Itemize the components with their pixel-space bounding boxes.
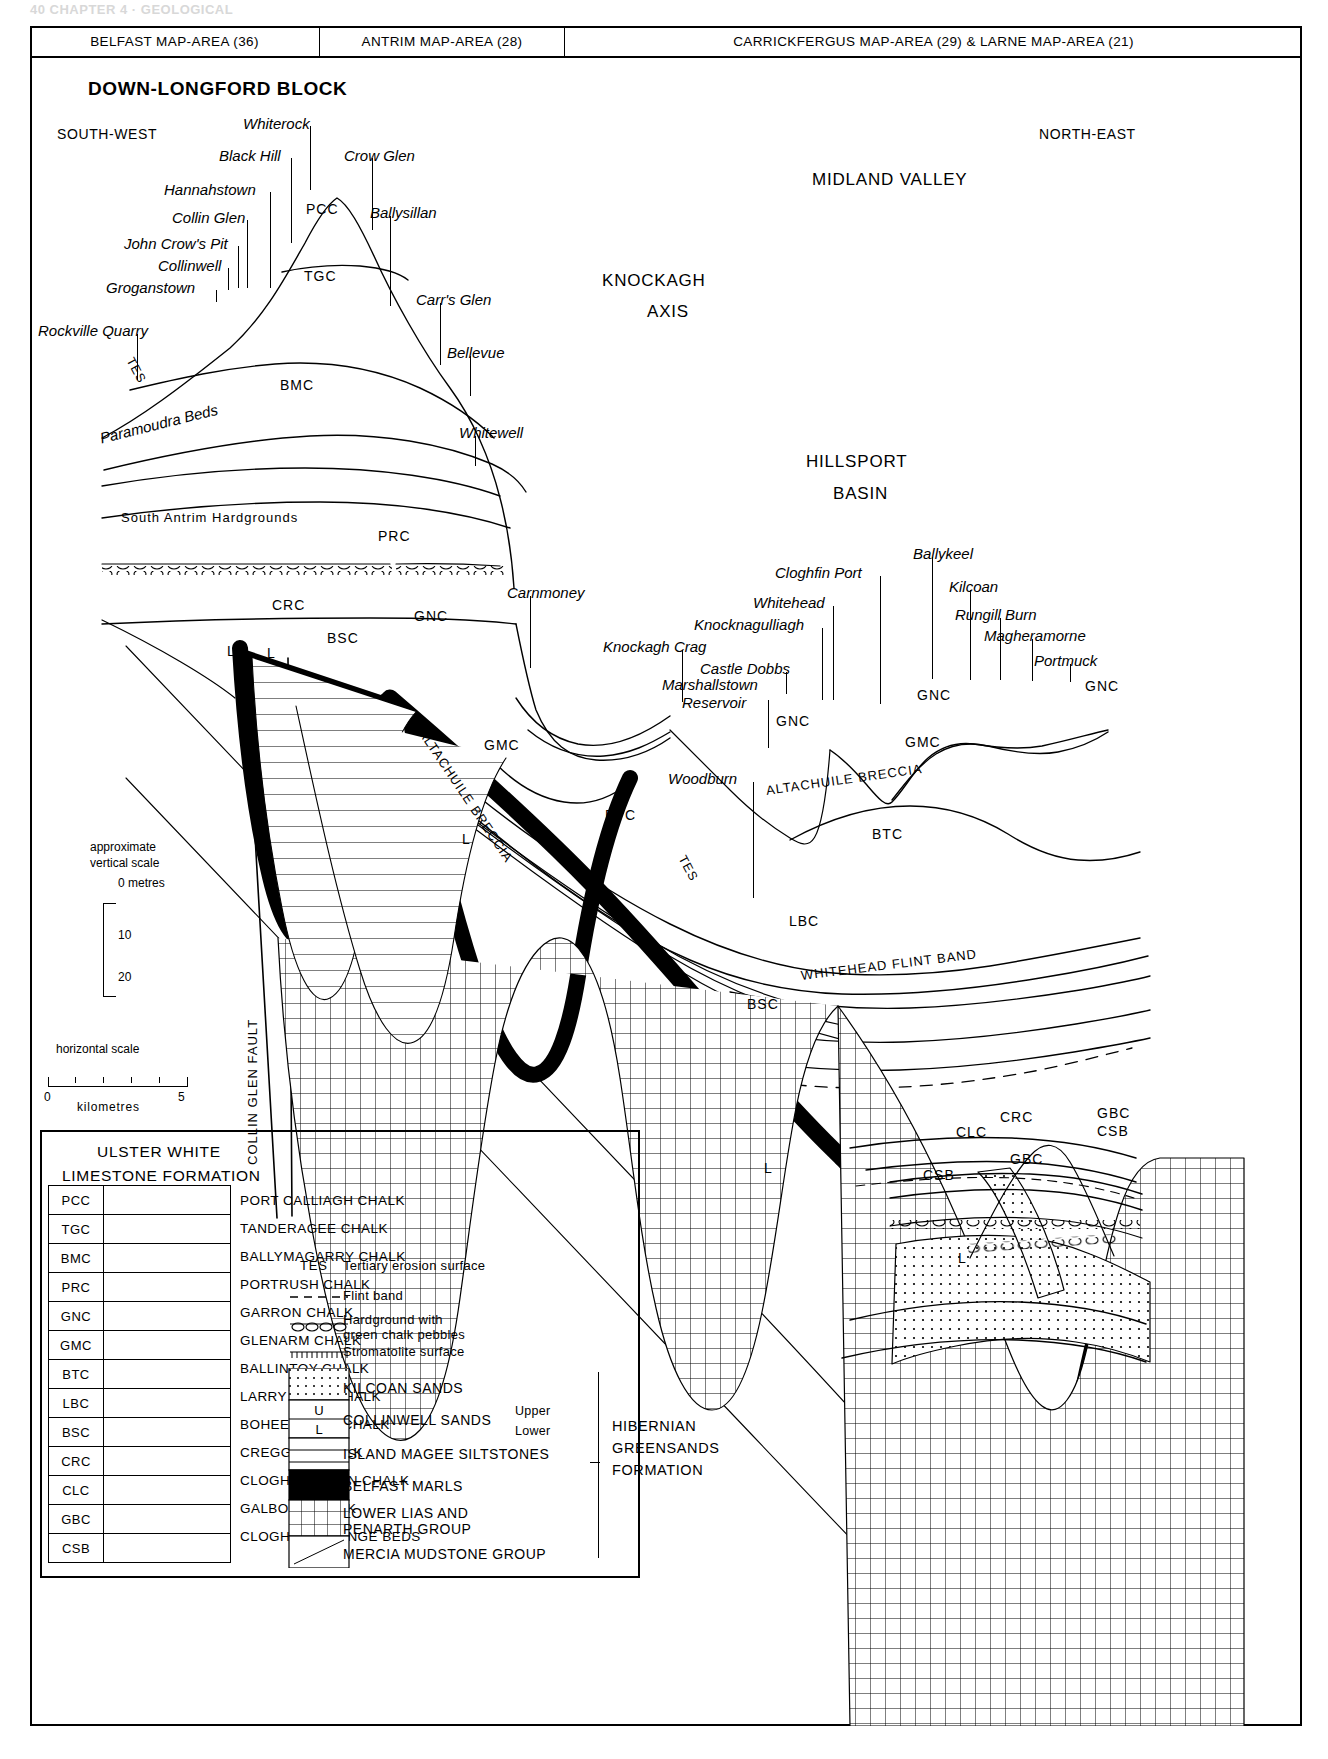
locality-label: Rockville Quarry xyxy=(38,322,148,339)
section-formation-code: BTC xyxy=(872,826,903,842)
locality-label: Reservoir xyxy=(682,694,746,711)
section-formation-code: GNC xyxy=(414,608,448,624)
vertical-scale-tick-20: 20 xyxy=(118,970,131,984)
direction-south-west: SOUTH-WEST xyxy=(57,126,157,142)
locality-label: Collin Glen xyxy=(172,209,245,226)
locality-label: Groganstown xyxy=(106,279,195,296)
map-area-cell-carrickfergus-larne: CARRICKFERGUS MAP-AREA (29) & LARNE MAP-… xyxy=(565,26,1302,56)
vertical-scale-tick-0: 0 metres xyxy=(118,876,165,890)
locality-label: Carr's Glen xyxy=(416,291,491,308)
locality-leader-line xyxy=(880,576,881,704)
locality-label: Woodburn xyxy=(668,770,737,787)
locality-label: Castle Dobbs xyxy=(700,660,790,677)
section-formation-code: BSC xyxy=(747,996,779,1012)
horizontal-scale-bar xyxy=(48,1077,188,1087)
locality-leader-line xyxy=(470,356,471,396)
locality-label: Magheramorne xyxy=(984,627,1086,644)
section-formation-code: TGC xyxy=(304,268,337,284)
section-formation-code: PRC xyxy=(378,528,411,544)
section-formation-code: GNC xyxy=(776,713,810,729)
locality-leader-line xyxy=(475,436,476,466)
region-knockagh-axis-line2: AXIS xyxy=(647,302,689,322)
region-down-longford-block: DOWN-LONGFORD BLOCK xyxy=(88,78,347,100)
locality-leader-line xyxy=(247,220,248,288)
direction-north-east: NORTH-EAST xyxy=(1039,126,1136,142)
locality-leader-line xyxy=(1070,664,1071,682)
locality-leader-line xyxy=(390,216,391,306)
vertical-scale-tick-10: 10 xyxy=(118,928,131,942)
locality-label: Rungill Burn xyxy=(955,606,1037,623)
section-formation-code: BMC xyxy=(280,377,314,393)
section-formation-code: L xyxy=(227,643,236,659)
locality-leader-line xyxy=(270,192,271,288)
surface-label: South Antrim Hardgrounds xyxy=(121,510,298,525)
locality-label: Collinwell xyxy=(158,257,221,274)
section-formation-code: CRC xyxy=(1000,1109,1033,1125)
locality-leader-line xyxy=(786,672,787,694)
locality-leader-line xyxy=(753,782,754,898)
section-formation-code: GBC xyxy=(1010,1151,1043,1167)
locality-leader-line xyxy=(768,700,769,748)
section-formation-code: CRC xyxy=(272,597,305,613)
section-formation-code: L xyxy=(462,831,471,847)
locality-leader-line xyxy=(238,246,239,288)
section-formation-code: CSB xyxy=(923,1167,955,1183)
locality-label: Ballykeel xyxy=(913,545,973,562)
region-hillsport-line1: HILLSPORT xyxy=(806,452,907,472)
locality-label: Ballysillan xyxy=(370,204,437,221)
section-formation-code: PCC xyxy=(306,201,339,217)
section-formation-code: BSC xyxy=(327,630,359,646)
locality-label: Whitehead xyxy=(753,594,825,611)
section-formation-code: CLC xyxy=(956,1124,987,1140)
figure-page: 40 CHAPTER 4 · GEOLOGICAL BELFAST MAP-AR… xyxy=(0,0,1328,1759)
locality-leader-line xyxy=(530,596,531,668)
vertical-scale-caption-2: vertical scale xyxy=(90,856,159,870)
locality-leader-line xyxy=(822,628,823,700)
locality-label: Knocknagulliagh xyxy=(694,616,804,633)
section-formation-code: GMC xyxy=(484,737,520,753)
map-area-cell-antrim: ANTRIM MAP-AREA (28) xyxy=(320,26,565,56)
locality-label: Whitewell xyxy=(459,424,523,441)
locality-label: Whiterock xyxy=(243,115,310,132)
locality-leader-line xyxy=(291,158,292,243)
section-formation-code: LBC xyxy=(789,913,819,929)
locality-leader-line xyxy=(228,268,229,290)
horizontal-scale-caption: horizontal scale xyxy=(56,1042,139,1056)
section-formation-code: U xyxy=(239,660,250,676)
section-formation-code: GMC xyxy=(905,734,941,750)
section-formation-code: L xyxy=(764,1160,773,1176)
map-area-header: BELFAST MAP-AREA (36) ANTRIM MAP-AREA (2… xyxy=(30,26,1302,58)
map-area-cell-belfast: BELFAST MAP-AREA (36) xyxy=(30,26,320,56)
locality-label: Marshallstown xyxy=(662,676,758,693)
section-formation-code: GNC xyxy=(917,687,951,703)
locality-label: Carnmoney xyxy=(507,584,585,601)
locality-leader-line xyxy=(932,557,933,679)
locality-label: Cloghfin Port xyxy=(775,564,862,581)
section-formation-code: L xyxy=(958,1250,967,1266)
locality-leader-line xyxy=(970,590,971,680)
region-knockagh-axis-line1: KNOCKAGH xyxy=(602,271,706,291)
legend-frame xyxy=(40,1130,640,1578)
locality-leader-line xyxy=(440,303,441,365)
region-hillsport-line2: BASIN xyxy=(833,484,888,504)
running-head: 40 CHAPTER 4 · GEOLOGICAL xyxy=(30,2,233,17)
section-formation-code: BTC xyxy=(605,807,636,823)
locality-label: John Crow's Pit xyxy=(124,235,228,252)
locality-leader-line xyxy=(1032,639,1033,681)
horizontal-scale-min: 0 xyxy=(44,1090,51,1104)
locality-label: Black Hill xyxy=(219,147,281,164)
region-midland-valley: MIDLAND VALLEY xyxy=(812,170,967,190)
locality-leader-line xyxy=(216,290,217,302)
locality-label: Crow Glen xyxy=(344,147,415,164)
vertical-scale-caption-1: approximate xyxy=(90,840,156,854)
horizontal-scale-max: 5 xyxy=(178,1090,185,1104)
section-formation-code: GBC xyxy=(1097,1105,1130,1121)
locality-leader-line xyxy=(310,126,311,190)
vertical-scale-bar xyxy=(103,903,116,997)
locality-label: Hannahstown xyxy=(164,181,256,198)
locality-label: Knockagh Crag xyxy=(603,638,706,655)
section-formation-code: L xyxy=(267,645,276,661)
section-formation-code: CSB xyxy=(1097,1123,1129,1139)
locality-label: Portmuck xyxy=(1034,652,1097,669)
locality-leader-line xyxy=(833,606,834,700)
